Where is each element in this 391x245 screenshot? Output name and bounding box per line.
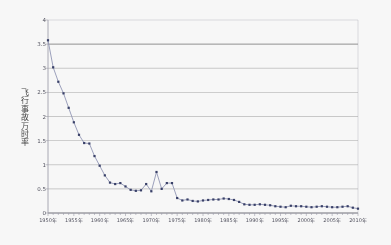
x-tick-label: 1980年 <box>194 216 212 223</box>
data-point-marker <box>290 205 292 207</box>
y-tick-label: 2 <box>30 114 48 120</box>
data-point-marker <box>140 189 142 191</box>
data-point-marker <box>321 205 323 207</box>
data-point-marker <box>207 199 209 201</box>
data-point-marker <box>78 134 80 136</box>
data-point-marker <box>279 206 281 208</box>
data-point-marker <box>347 205 349 207</box>
y-axis-tick-labels: 00.511.522.533.54 <box>30 0 48 245</box>
data-point-marker <box>109 182 111 184</box>
data-point-marker <box>68 107 70 109</box>
x-tick-label: 1970年 <box>142 216 160 223</box>
data-point-marker <box>171 182 173 184</box>
series-markers <box>47 39 359 210</box>
data-point-marker <box>217 198 219 200</box>
data-point-marker <box>119 182 121 184</box>
series-line <box>48 40 358 208</box>
x-tick-label: 2005年 <box>323 216 341 223</box>
data-point-marker <box>99 165 101 167</box>
data-point-marker <box>341 206 343 208</box>
x-tick-label: 1995年 <box>272 216 290 223</box>
x-tick-label: 1955年 <box>65 216 83 223</box>
data-point-marker <box>223 197 225 199</box>
data-point-marker <box>145 183 147 185</box>
data-point-marker <box>316 206 318 208</box>
data-point-marker <box>305 206 307 208</box>
data-point-marker <box>88 142 90 144</box>
data-point-marker <box>155 171 157 173</box>
x-tick-label: 1965年 <box>117 216 135 223</box>
data-point-marker <box>161 188 163 190</box>
data-point-marker <box>357 208 359 210</box>
data-point-marker <box>186 198 188 200</box>
y-axis-title: 飞行事故万时率 <box>14 62 28 172</box>
data-point-marker <box>73 121 75 123</box>
data-point-marker <box>62 92 64 94</box>
data-point-marker <box>269 204 271 206</box>
x-axis-tick-marks <box>46 20 359 216</box>
data-point-marker <box>150 190 152 192</box>
data-point-marker <box>285 206 287 208</box>
data-point-marker <box>326 206 328 208</box>
data-point-marker <box>212 198 214 200</box>
y-tick-label: 3 <box>30 65 48 71</box>
data-point-marker <box>274 205 276 207</box>
data-point-marker <box>254 204 256 206</box>
data-point-marker <box>295 205 297 207</box>
data-point-marker <box>248 204 250 206</box>
data-point-marker <box>259 203 261 205</box>
data-point-marker <box>264 204 266 206</box>
gridlines <box>48 44 358 213</box>
data-point-marker <box>83 142 85 144</box>
data-point-marker <box>228 198 230 200</box>
x-tick-label: 1985年 <box>220 216 238 223</box>
data-point-marker <box>124 185 126 187</box>
x-axis-tick-labels: 1950年1955年1960年1965年1970年1975年1980年1985年… <box>0 216 391 230</box>
data-point-marker <box>135 190 137 192</box>
data-point-marker <box>176 197 178 199</box>
x-tick-label: 1975年 <box>168 216 186 223</box>
y-tick-label: 0.5 <box>30 186 48 192</box>
chart-container: 飞行事故万时率 00.511.522.533.54 1950年1955年1960… <box>0 0 391 245</box>
x-tick-label: 1990年 <box>246 216 264 223</box>
data-point-marker <box>52 66 54 68</box>
data-point-marker <box>233 199 235 201</box>
data-point-marker <box>202 199 204 201</box>
y-tick-label: 1.5 <box>30 138 48 144</box>
data-point-marker <box>352 207 354 209</box>
data-point-marker <box>300 205 302 207</box>
data-point-marker <box>93 155 95 157</box>
x-tick-label: 1960年 <box>91 216 109 223</box>
x-tick-label: 1950年 <box>39 216 57 223</box>
data-point-marker <box>114 183 116 185</box>
y-tick-label: 2.5 <box>30 89 48 95</box>
x-tick-label: 2000年 <box>297 216 315 223</box>
data-point-marker <box>130 189 132 191</box>
data-point-marker <box>243 203 245 205</box>
data-point-marker <box>166 182 168 184</box>
data-point-marker <box>192 200 194 202</box>
x-tick-label: 2010年 <box>349 216 367 223</box>
y-tick-label: 4 <box>30 17 48 23</box>
data-point-marker <box>104 174 106 176</box>
y-tick-label: 3.5 <box>30 41 48 47</box>
data-point-marker <box>310 206 312 208</box>
data-point-marker <box>336 206 338 208</box>
data-point-marker <box>331 206 333 208</box>
data-point-marker <box>238 201 240 203</box>
data-point-marker <box>57 81 59 83</box>
plot-area <box>0 0 391 245</box>
data-point-marker <box>197 200 199 202</box>
y-tick-label: 1 <box>30 162 48 168</box>
data-point-marker <box>181 199 183 201</box>
